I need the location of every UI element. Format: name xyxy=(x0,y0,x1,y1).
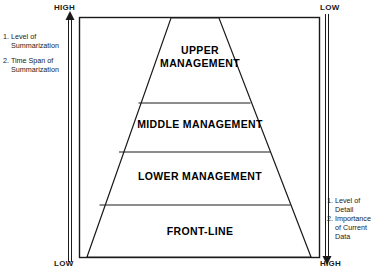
left-axis-arrow-icon xyxy=(66,11,75,262)
right-axis-arrow-icon xyxy=(323,14,332,265)
pyramid-band-label-lower-management: LOWER MANAGEMENT xyxy=(100,170,300,183)
pyramid-band-label-upper-management: UPPER MANAGEMENT xyxy=(140,44,260,70)
diagram-canvas: HIGH LOW LOW HIGH 1. Level of Summarizat… xyxy=(0,0,381,276)
pyramid-band-label-middle-management: MIDDLE MANAGEMENT xyxy=(100,118,300,131)
pyramid-band-label-front-line: FRONT-LINE xyxy=(100,225,300,238)
